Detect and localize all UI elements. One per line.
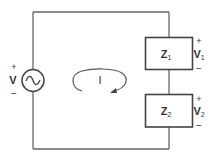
ac-source: + V − xyxy=(9,62,44,99)
source-plus-sign: + xyxy=(11,62,16,72)
current-label: I xyxy=(98,74,101,86)
v1-plus-sign: + xyxy=(196,36,201,46)
loop-current: I xyxy=(73,69,126,93)
source-label: V xyxy=(9,74,17,86)
v2-label: V2 xyxy=(193,105,204,118)
v2-plus-sign: + xyxy=(196,94,201,104)
v1-subscript: 1 xyxy=(201,54,205,61)
source-minus-sign: − xyxy=(11,88,17,99)
impedance-z2: Z2 + V2 − xyxy=(146,94,205,131)
v1-label: V1 xyxy=(193,48,204,61)
z2-subscript: 2 xyxy=(167,111,171,118)
current-arrowhead-icon xyxy=(110,88,117,93)
v2-minus-sign: − xyxy=(196,120,202,131)
z1-subscript: 1 xyxy=(167,54,171,61)
v2-subscript: 2 xyxy=(201,111,205,118)
impedance-z1: Z1 + V1 − xyxy=(146,36,205,74)
circuit-diagram: + V − I Z1 + V1 − Z2 + V2 − xyxy=(0,0,215,162)
v1-minus-sign: − xyxy=(196,63,202,74)
